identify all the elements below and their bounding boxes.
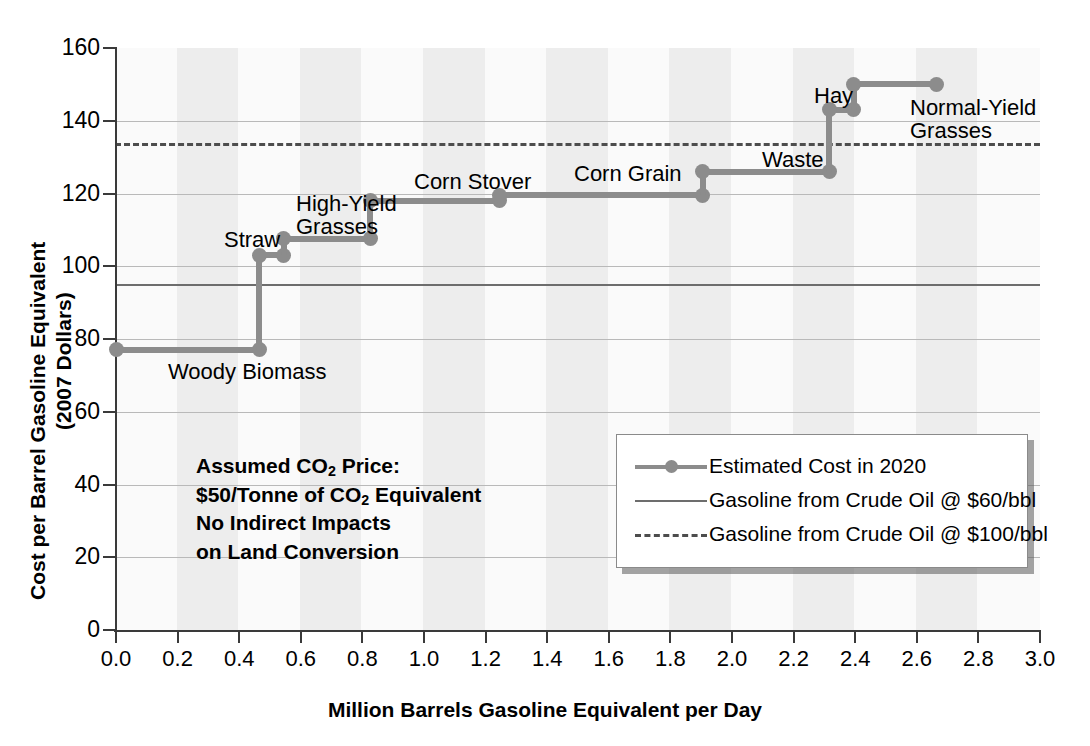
y-tick-80: [103, 338, 117, 340]
x-tick-label-2.8: 2.8: [948, 648, 1008, 670]
step-segment: [854, 81, 937, 87]
y-tick-120: [103, 193, 117, 195]
y-axis-line: [115, 48, 117, 632]
x-tick-2.8: [977, 630, 979, 643]
x-tick-0.8: [361, 630, 363, 643]
y-tick-label-40: 40: [48, 473, 100, 496]
step-riser: [826, 110, 832, 172]
x-tick-label-1.8: 1.8: [640, 648, 700, 670]
x-tick-2.6: [916, 630, 918, 643]
y-axis-title-line2: (2007 Dollars): [52, 292, 77, 430]
y-tick-label-140: 140: [48, 109, 100, 132]
x-tick-1.8: [669, 630, 671, 643]
x-tick-0.6: [300, 630, 302, 643]
x-tick-label-2.2: 2.2: [764, 648, 824, 670]
x-tick-1.0: [423, 630, 425, 643]
annotation-line-1: Assumed CO2 Price:: [196, 452, 481, 481]
x-tick-label-0.6: 0.6: [271, 648, 331, 670]
point-label-woody-biomass: Woody Biomass: [168, 360, 327, 383]
y-tick-label-20: 20: [48, 545, 100, 568]
y-tick-160: [103, 47, 117, 49]
legend-key-line-with-marker: [633, 456, 709, 476]
x-tick-label-3.0: 3.0: [1010, 648, 1070, 670]
y-tick-140: [103, 120, 117, 122]
chart-legend: Estimated Cost in 2020Gasoline from Crud…: [616, 434, 1028, 568]
x-tick-0.2: [177, 630, 179, 643]
legend-item[interactable]: Estimated Cost in 2020: [633, 449, 1011, 483]
y-tick-label-100: 100: [48, 254, 100, 277]
gridline-60: [115, 412, 1040, 413]
gridline-80: [115, 339, 1040, 340]
x-tick-2.2: [793, 630, 795, 643]
x-tick-label-1.0: 1.0: [394, 648, 454, 670]
legend-key-solid-line: [633, 490, 709, 510]
point-label-normal-yield-grasses: Normal-Yield Grasses: [910, 96, 1036, 143]
legend-label: Estimated Cost in 2020: [709, 454, 926, 478]
annotation-line-2: $50/Tonne of CO2 Equivalent: [196, 481, 481, 510]
x-tick-label-2.4: 2.4: [825, 648, 885, 670]
point-label-corn-grain: Corn Grain: [574, 162, 682, 185]
x-tick-0.4: [238, 630, 240, 643]
x-tick-label-2.0: 2.0: [702, 648, 762, 670]
assumption-annotation: Assumed CO2 Price: $50/Tonne of CO2 Equi…: [196, 452, 481, 566]
x-tick-label-0.2: 0.2: [148, 648, 208, 670]
x-tick-label-0.0: 0.0: [86, 648, 146, 670]
x-tick-1.4: [546, 630, 548, 643]
x-tick-2.0: [731, 630, 733, 643]
point-label-waste: Waste: [762, 148, 824, 171]
x-tick-1.2: [485, 630, 487, 643]
y-tick-label-wrap: 0: [38, 618, 100, 641]
point-label-straw: Straw: [224, 228, 280, 251]
annotation-line-4: on Land Conversion: [196, 538, 481, 566]
x-tick-label-1.6: 1.6: [579, 648, 639, 670]
x-tick-label-0.4: 0.4: [209, 648, 269, 670]
reference-line-100bbl: [115, 143, 1040, 146]
data-point-marker: [109, 342, 124, 357]
y-tick-20: [103, 556, 117, 558]
y-tick-100: [103, 265, 117, 267]
point-label-hay: Hay: [814, 84, 853, 107]
legend-label: Gasoline from Crude Oil @ $60/bbl: [709, 488, 1036, 512]
x-tick-label-0.8: 0.8: [332, 648, 392, 670]
point-label-high-yield-grasses: High-Yield Grasses: [296, 192, 397, 239]
x-axis-line: [114, 630, 1041, 632]
x-tick-2.4: [854, 630, 856, 643]
x-tick-label-1.2: 1.2: [456, 648, 516, 670]
x-tick-label-1.4: 1.4: [517, 648, 577, 670]
emissions-cost-supply-curve-chart: 020406080100120140160 0.00.20.40.60.81.0…: [0, 0, 1090, 746]
step-riser: [256, 255, 262, 350]
legend-item[interactable]: Gasoline from Crude Oil @ $100/bbl: [633, 517, 1011, 551]
y-axis-title-line1: Cost per Barrel Gasoline Equivalent: [26, 242, 51, 600]
y-tick-label-160: 160: [48, 36, 100, 59]
y-tick-40: [103, 484, 117, 486]
gridline-100: [115, 266, 1040, 267]
x-tick-label-2.6: 2.6: [887, 648, 947, 670]
x-tick-1.6: [608, 630, 610, 643]
x-axis-title: Million Barrels Gasoline Equivalent per …: [0, 698, 1090, 722]
y-tick-label-0: 0: [48, 618, 100, 641]
legend-item[interactable]: Gasoline from Crude Oil @ $60/bbl: [633, 483, 1011, 517]
y-tick-label-wrap: 140: [38, 109, 100, 132]
y-tick-60: [103, 411, 117, 413]
gridline-140: [115, 121, 1040, 122]
y-tick-label-120: 120: [48, 182, 100, 205]
step-segment: [116, 347, 259, 353]
reference-line-60bbl: [115, 284, 1040, 286]
legend-key-dashed-line: [633, 524, 709, 544]
y-tick-label-wrap: 160: [38, 36, 100, 59]
legend-label: Gasoline from Crude Oil @ $100/bbl: [709, 522, 1048, 546]
y-tick-label-wrap: 120: [38, 182, 100, 205]
annotation-line-3: No Indirect Impacts: [196, 509, 481, 537]
point-label-corn-stover: Corn Stover: [414, 170, 531, 193]
x-tick-0.0: [115, 630, 117, 643]
x-tick-3.0: [1039, 630, 1041, 643]
